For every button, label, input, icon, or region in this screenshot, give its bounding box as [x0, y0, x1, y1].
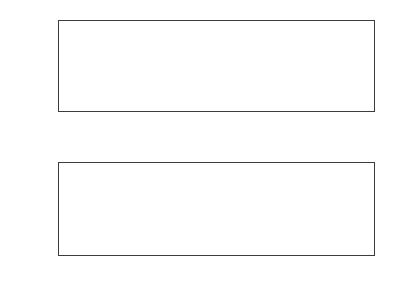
- frequency-response-curve: [0, 0, 398, 146]
- time-response-waveform: [0, 146, 398, 292]
- figure-container: [0, 0, 398, 292]
- time-response-panel: [0, 146, 398, 292]
- frequency-response-panel: [0, 0, 398, 146]
